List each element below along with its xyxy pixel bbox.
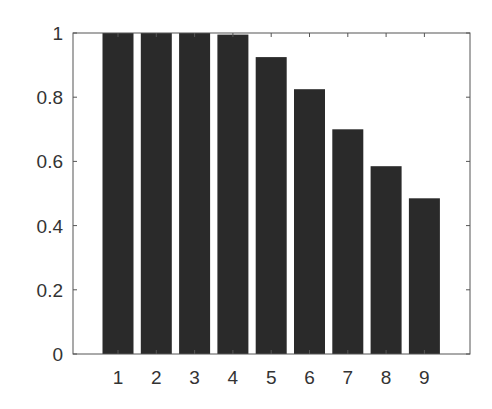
x-tick-label: 4	[228, 367, 239, 388]
bar-1	[103, 33, 134, 354]
bar-6	[294, 89, 325, 354]
bar-chart: 00.20.40.60.81 123456789	[0, 0, 492, 409]
bar-2	[141, 33, 172, 354]
x-tick-label: 5	[266, 367, 277, 388]
y-tick-label: 0.2	[37, 280, 63, 301]
x-tick-label: 6	[304, 367, 315, 388]
y-tick-label: 0.8	[37, 87, 63, 108]
x-tick-label: 7	[343, 367, 354, 388]
bars-group	[103, 33, 440, 354]
bar-9	[409, 198, 440, 354]
x-tick-label: 3	[189, 367, 200, 388]
x-tick-label: 1	[113, 367, 124, 388]
bar-3	[179, 33, 210, 354]
bar-8	[371, 166, 402, 354]
bar-7	[332, 129, 363, 354]
bar-4	[217, 35, 248, 354]
y-tick-label: 0.4	[37, 216, 64, 237]
y-tick-label: 0	[52, 344, 63, 365]
bar-5	[256, 57, 287, 354]
x-tick-label: 8	[381, 367, 392, 388]
y-axis: 00.20.40.60.81	[37, 23, 470, 365]
x-tick-label: 9	[419, 367, 430, 388]
y-tick-label: 1	[52, 23, 63, 44]
y-tick-label: 0.6	[37, 151, 63, 172]
x-tick-label: 2	[151, 367, 162, 388]
